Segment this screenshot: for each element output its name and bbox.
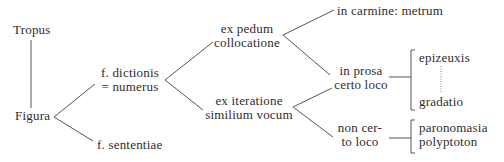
- node-in-prosa-line2: certo loco: [334, 78, 388, 92]
- node-non-certo: non cer- to loco: [334, 121, 386, 149]
- node-in-prosa-line1: in prosa: [334, 64, 388, 78]
- edge-dictionis-pedum: [165, 42, 213, 80]
- node-non-certo-line2: to loco: [334, 135, 386, 149]
- edge-iteratione-prosa: [293, 88, 332, 107]
- node-in-prosa: in prosa certo loco: [334, 64, 388, 92]
- node-gradatio: gradatio: [419, 95, 463, 109]
- node-ex-pedum-line1: ex pedum: [210, 22, 284, 36]
- node-f-dictionis-line2: = numerus: [97, 80, 163, 94]
- edge-figura-dictionis: [54, 84, 95, 117]
- edge-figura-sententiae: [54, 117, 93, 141]
- edge-iteratione-noncerto: [293, 107, 333, 137]
- edge-dictionis-iteratione: [165, 80, 203, 110]
- edge-pedum-carmine: [283, 10, 334, 35]
- node-paronomasia: paronomasia: [419, 121, 488, 135]
- node-f-dictionis: f. dictionis = numerus: [97, 66, 163, 94]
- node-ex-iteratione-line2: similium vocum: [203, 108, 295, 122]
- node-figura: Figura: [15, 109, 50, 123]
- node-polyptoton: polyptoton: [419, 135, 477, 149]
- node-f-sententiae: f. sententiae: [97, 138, 162, 152]
- node-f-dictionis-line1: f. dictionis: [97, 66, 163, 80]
- node-ex-iteratione: ex iteratione similium vocum: [203, 94, 295, 122]
- edge-pedum-prosa: [283, 35, 330, 75]
- node-ex-iteratione-line1: ex iteratione: [203, 94, 295, 108]
- node-non-certo-line1: non cer-: [334, 121, 386, 135]
- node-tropus: Tropus: [13, 23, 51, 37]
- node-in-carmine: in carmine: metrum: [337, 4, 443, 18]
- rhetoric-tree-diagram: Tropus Figura f. dictionis = numerus f. …: [0, 0, 504, 162]
- node-ex-pedum: ex pedum collocatione: [210, 22, 284, 50]
- node-epizeuxis: epizeuxis: [419, 51, 470, 65]
- node-ex-pedum-line2: collocatione: [210, 36, 284, 50]
